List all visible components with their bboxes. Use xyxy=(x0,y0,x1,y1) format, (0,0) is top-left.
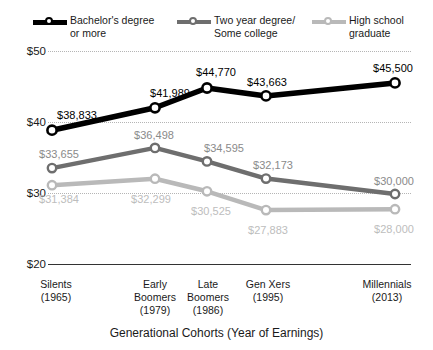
x-tick-label-millennials: Millennials (2013) xyxy=(362,278,411,304)
data-label: $36,498 xyxy=(134,129,174,141)
x-axis-title: Generational Cohorts (Year of Earnings) xyxy=(0,326,433,340)
data-point-marker xyxy=(151,144,159,152)
data-label: $31,384 xyxy=(39,193,79,205)
data-label: $30,000 xyxy=(374,175,414,187)
data-label: $45,500 xyxy=(373,62,413,74)
data-point-marker xyxy=(48,181,56,189)
series-line-two-year-degree xyxy=(52,148,395,194)
data-point-marker xyxy=(262,174,270,182)
data-point-marker xyxy=(262,206,270,214)
data-label: $44,770 xyxy=(196,66,236,78)
data-label: $38,833 xyxy=(57,109,97,121)
x-tick-label-late-boomers: Late Boomers (1986) xyxy=(187,278,229,317)
data-label: $32,299 xyxy=(131,193,171,205)
data-point-marker xyxy=(390,78,399,87)
data-point-marker xyxy=(202,83,211,92)
data-point-marker xyxy=(48,164,56,172)
data-label: $30,525 xyxy=(191,205,231,217)
data-label: $28,000 xyxy=(374,223,414,235)
data-point-marker xyxy=(151,175,159,183)
data-label: $27,883 xyxy=(248,224,288,236)
data-label: $41,989 xyxy=(150,87,190,99)
data-point-marker xyxy=(203,157,211,165)
x-tick-label-silents: Silents (1965) xyxy=(40,278,72,304)
data-point-marker xyxy=(150,103,159,112)
data-point-marker xyxy=(261,91,270,100)
data-label: $33,655 xyxy=(39,148,79,160)
series-line-bachelors-degree xyxy=(52,83,395,130)
data-label: $34,595 xyxy=(204,142,244,154)
data-point-marker xyxy=(203,187,211,195)
line-chart: Bachelor's degree or more Two year degre… xyxy=(0,0,433,350)
x-tick-label-gen-xers: Gen Xers (1995) xyxy=(246,278,290,304)
data-point-marker xyxy=(391,190,399,198)
data-point-marker xyxy=(47,126,56,135)
x-tick-label-early-boomers: Early Boomers (1979) xyxy=(134,278,176,317)
data-point-marker xyxy=(391,205,399,213)
data-label: $32,173 xyxy=(253,159,293,171)
data-label: $43,663 xyxy=(247,76,287,88)
plot-area: $50 $40 $30 $20 xyxy=(0,0,433,350)
